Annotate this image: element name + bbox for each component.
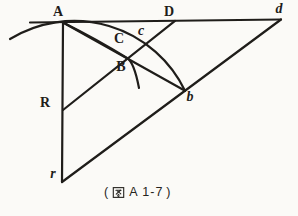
point-label-C: C [114, 32, 124, 46]
caption-cjk-tu-glyph [112, 186, 125, 199]
point-label-B: B [116, 60, 125, 74]
caption-open-paren: ( [104, 186, 108, 199]
arc-A-to-b [10, 21, 185, 91]
point-label-c: c [138, 24, 144, 38]
figure-caption: ( A 1-7 ) [104, 186, 171, 199]
vertical-line-ARr [62, 23, 63, 183]
point-label-A: A [53, 5, 63, 19]
figure-a1-7: A D d C c B R b r ( A 1-7 ) [0, 0, 298, 216]
caption-text: A 1-7 [129, 186, 163, 199]
point-label-R: R [40, 96, 50, 110]
hypotenuse-line-dbr [62, 20, 281, 183]
caption-close-paren: ) [166, 186, 170, 199]
point-label-d: d [276, 2, 283, 16]
point-label-r: r [50, 167, 55, 181]
point-label-D: D [164, 5, 174, 19]
point-label-b: b [187, 90, 194, 104]
